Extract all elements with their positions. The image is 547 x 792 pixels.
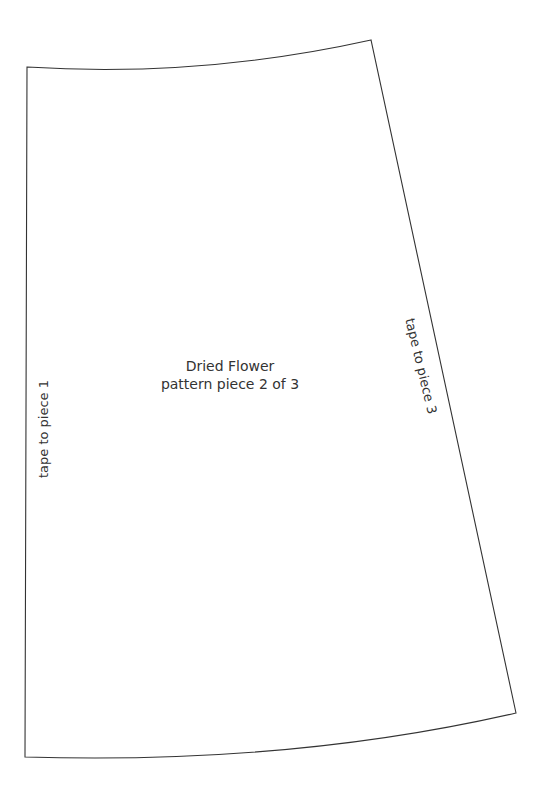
pattern-subtitle: pattern piece 2 of 3 (130, 375, 330, 393)
pattern-title: Dried Flower (130, 357, 330, 375)
left-edge-label: tape to piece 1 (36, 380, 51, 478)
pattern-piece-shape (25, 40, 516, 758)
pattern-title-block: Dried Flower pattern piece 2 of 3 (130, 357, 330, 393)
pattern-piece-outline (0, 0, 547, 792)
